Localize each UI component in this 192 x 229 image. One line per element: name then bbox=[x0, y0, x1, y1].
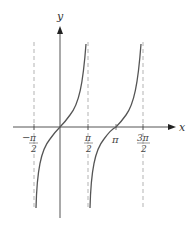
x-axis-arrow-icon bbox=[168, 124, 176, 130]
tick-label-three-half-pi-den: 2 bbox=[140, 144, 147, 154]
y-axis-label: y bbox=[56, 10, 64, 23]
tan-branch-2 bbox=[90, 44, 141, 208]
tick-label-neg-half-pi-num: π bbox=[29, 133, 37, 143]
tangent-graph: x y − π 2 π 2 π 3π 2 bbox=[0, 0, 192, 229]
y-axis-arrow-icon bbox=[57, 26, 63, 34]
tick-label-half-pi-num: π bbox=[84, 133, 92, 143]
tan-branch-1 bbox=[36, 44, 86, 208]
tick-label-pi: π bbox=[111, 134, 119, 145]
x-axis-label: x bbox=[179, 121, 186, 134]
tick-label-neg-half-pi-den: 2 bbox=[30, 144, 37, 154]
tick-label-half-pi-den: 2 bbox=[85, 144, 92, 154]
tick-label-three-half-pi-num: 3π bbox=[137, 133, 150, 143]
